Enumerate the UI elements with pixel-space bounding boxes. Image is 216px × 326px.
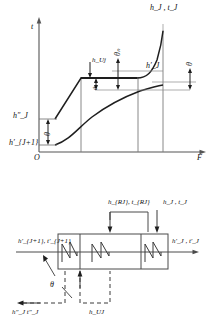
- label-theta-mid-upper: θₙ: [114, 49, 122, 56]
- hu-arrow: [88, 62, 92, 78]
- label-outlet: h′_J , t′_J: [172, 238, 199, 245]
- x-axis: [39, 150, 206, 155]
- theta-arrow-mid2: [116, 58, 120, 90]
- label-theta-bottom-text: θ: [50, 280, 54, 289]
- label-h-prime-J-text: h′_J: [146, 61, 159, 70]
- theta-leader-arrowhead: [43, 255, 48, 262]
- top-feed-arrow-right: [155, 210, 160, 233]
- x-axis-label: F: [197, 154, 202, 162]
- label-theta-mid-small-text: θᵢ: [91, 85, 99, 90]
- label-hj-tj-feed: h_J , t_J: [163, 199, 187, 206]
- hu-up-arrow: [78, 270, 83, 288]
- label-theta-right-text: θ: [185, 62, 194, 66]
- label-theta-left: θ: [44, 132, 52, 136]
- label-h-prime-J1-text: h′_{J+1}: [9, 138, 38, 147]
- dashed-guides: [20, 271, 110, 303]
- label-hrj-trj-text: h_{RJ}, t_{RJ}: [108, 198, 150, 206]
- bottom-left-out-arrow: [17, 301, 40, 306]
- thermodynamic-figure: [0, 0, 216, 326]
- origin-label: O: [34, 154, 40, 162]
- label-inlet: h′_{J+1}, t′_{J+1}: [18, 238, 71, 245]
- label-theta-left-text: θ: [43, 132, 52, 136]
- label-hj-tj-top-text: h_J , t_J: [150, 3, 177, 12]
- label-h-double-prime-J: h″_J: [13, 112, 28, 120]
- stage-dividers: [81, 30, 163, 152]
- label-theta-right: θ: [186, 62, 194, 66]
- label-theta-mid-upper-text: θₙ: [113, 49, 122, 56]
- label-h-double-prime-J-text: h″_J: [13, 111, 28, 120]
- label-hu: h_Uj: [92, 57, 106, 64]
- top-chart: [37, 17, 206, 154]
- label-theta-bottom: θ: [50, 281, 54, 289]
- label-hj-tj-feed-text: h_J , t_J: [163, 198, 187, 206]
- label-inlet-text: h′_{J+1}, t′_{J+1}: [18, 237, 71, 245]
- label-bottom-left-out-text: h″_J t″_J: [12, 308, 38, 316]
- top-feed-bracket: [110, 212, 148, 232]
- label-huj: h_UJ: [89, 309, 104, 316]
- label-hu-text: h_Uj: [92, 56, 106, 64]
- label-theta-mid-small: θᵢ: [92, 85, 99, 90]
- y-axis: [37, 17, 42, 152]
- bottom-diagram: [16, 210, 199, 305]
- label-hrj-trj: h_{RJ}, t_{RJ}: [108, 199, 150, 206]
- theta-arrow-right: [188, 68, 192, 90]
- y-axis-label: t: [31, 23, 33, 31]
- label-bottom-left-out: h″_J t″_J: [12, 309, 38, 316]
- label-huj-text: h_UJ: [89, 308, 104, 316]
- top-feed-arrow-left: [108, 212, 113, 233]
- label-outlet-text: h′_J , t′_J: [172, 237, 199, 245]
- label-h-prime-J: h′_J: [146, 62, 159, 70]
- label-h-prime-J1: h′_{J+1}: [9, 139, 38, 147]
- label-hj-tj-top: h_J , t_J: [150, 4, 177, 12]
